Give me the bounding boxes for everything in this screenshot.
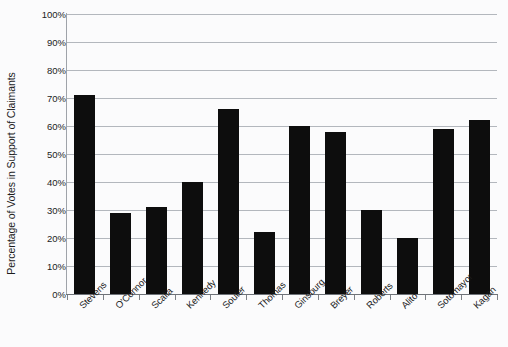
- y-axis-tick-label: 0%: [26, 289, 66, 300]
- x-axis-tick-mark: [246, 295, 247, 300]
- gridline: [67, 42, 497, 43]
- x-axis-tick-mark: [461, 295, 462, 300]
- x-axis-tick-mark: [318, 295, 319, 300]
- gridline: [67, 14, 497, 15]
- x-axis-tick-mark: [425, 295, 426, 300]
- x-axis-tick-mark: [390, 295, 391, 300]
- bar: [254, 232, 275, 294]
- bar: [182, 182, 203, 294]
- bar: [289, 126, 310, 294]
- y-axis-tick-label: 70%: [26, 93, 66, 104]
- bar: [361, 210, 382, 294]
- y-axis-tick-label: 20%: [26, 233, 66, 244]
- bar: [218, 109, 239, 294]
- x-axis-tick-mark: [67, 295, 68, 300]
- y-axis-tick-label: 50%: [26, 149, 66, 160]
- y-axis-tick-label: 80%: [26, 65, 66, 76]
- bar: [397, 238, 418, 294]
- plot-area: [67, 14, 497, 294]
- y-axis-tick-label: 40%: [26, 177, 66, 188]
- bar: [146, 207, 167, 294]
- y-axis-tick-label: 60%: [26, 121, 66, 132]
- y-axis-tick-group: 0%10%20%30%40%50%60%70%80%90%100%: [20, 0, 66, 347]
- y-axis-tick-label: 10%: [26, 261, 66, 272]
- y-axis-tick-label: 30%: [26, 205, 66, 216]
- bar: [110, 213, 131, 294]
- gridline: [67, 70, 497, 71]
- bar: [469, 120, 490, 294]
- x-axis-tick-mark: [354, 295, 355, 300]
- x-axis-tick-mark: [175, 295, 176, 300]
- bar: [74, 95, 95, 294]
- bar-chart: Percentage of Votes in Support of Claima…: [0, 0, 508, 347]
- gridline: [67, 126, 497, 127]
- x-axis-tick-mark: [497, 295, 498, 300]
- y-axis-tick-label: 90%: [26, 37, 66, 48]
- bar: [433, 129, 454, 294]
- gridline: [67, 98, 497, 99]
- x-axis-tick-mark: [103, 295, 104, 300]
- y-axis-title: Percentage of Votes in Support of Claima…: [0, 0, 22, 347]
- x-axis-tick-mark: [210, 295, 211, 300]
- x-axis-tick-mark: [139, 295, 140, 300]
- bar: [325, 132, 346, 294]
- y-axis-tick-label: 100%: [26, 9, 66, 20]
- x-axis-tick-mark: [282, 295, 283, 300]
